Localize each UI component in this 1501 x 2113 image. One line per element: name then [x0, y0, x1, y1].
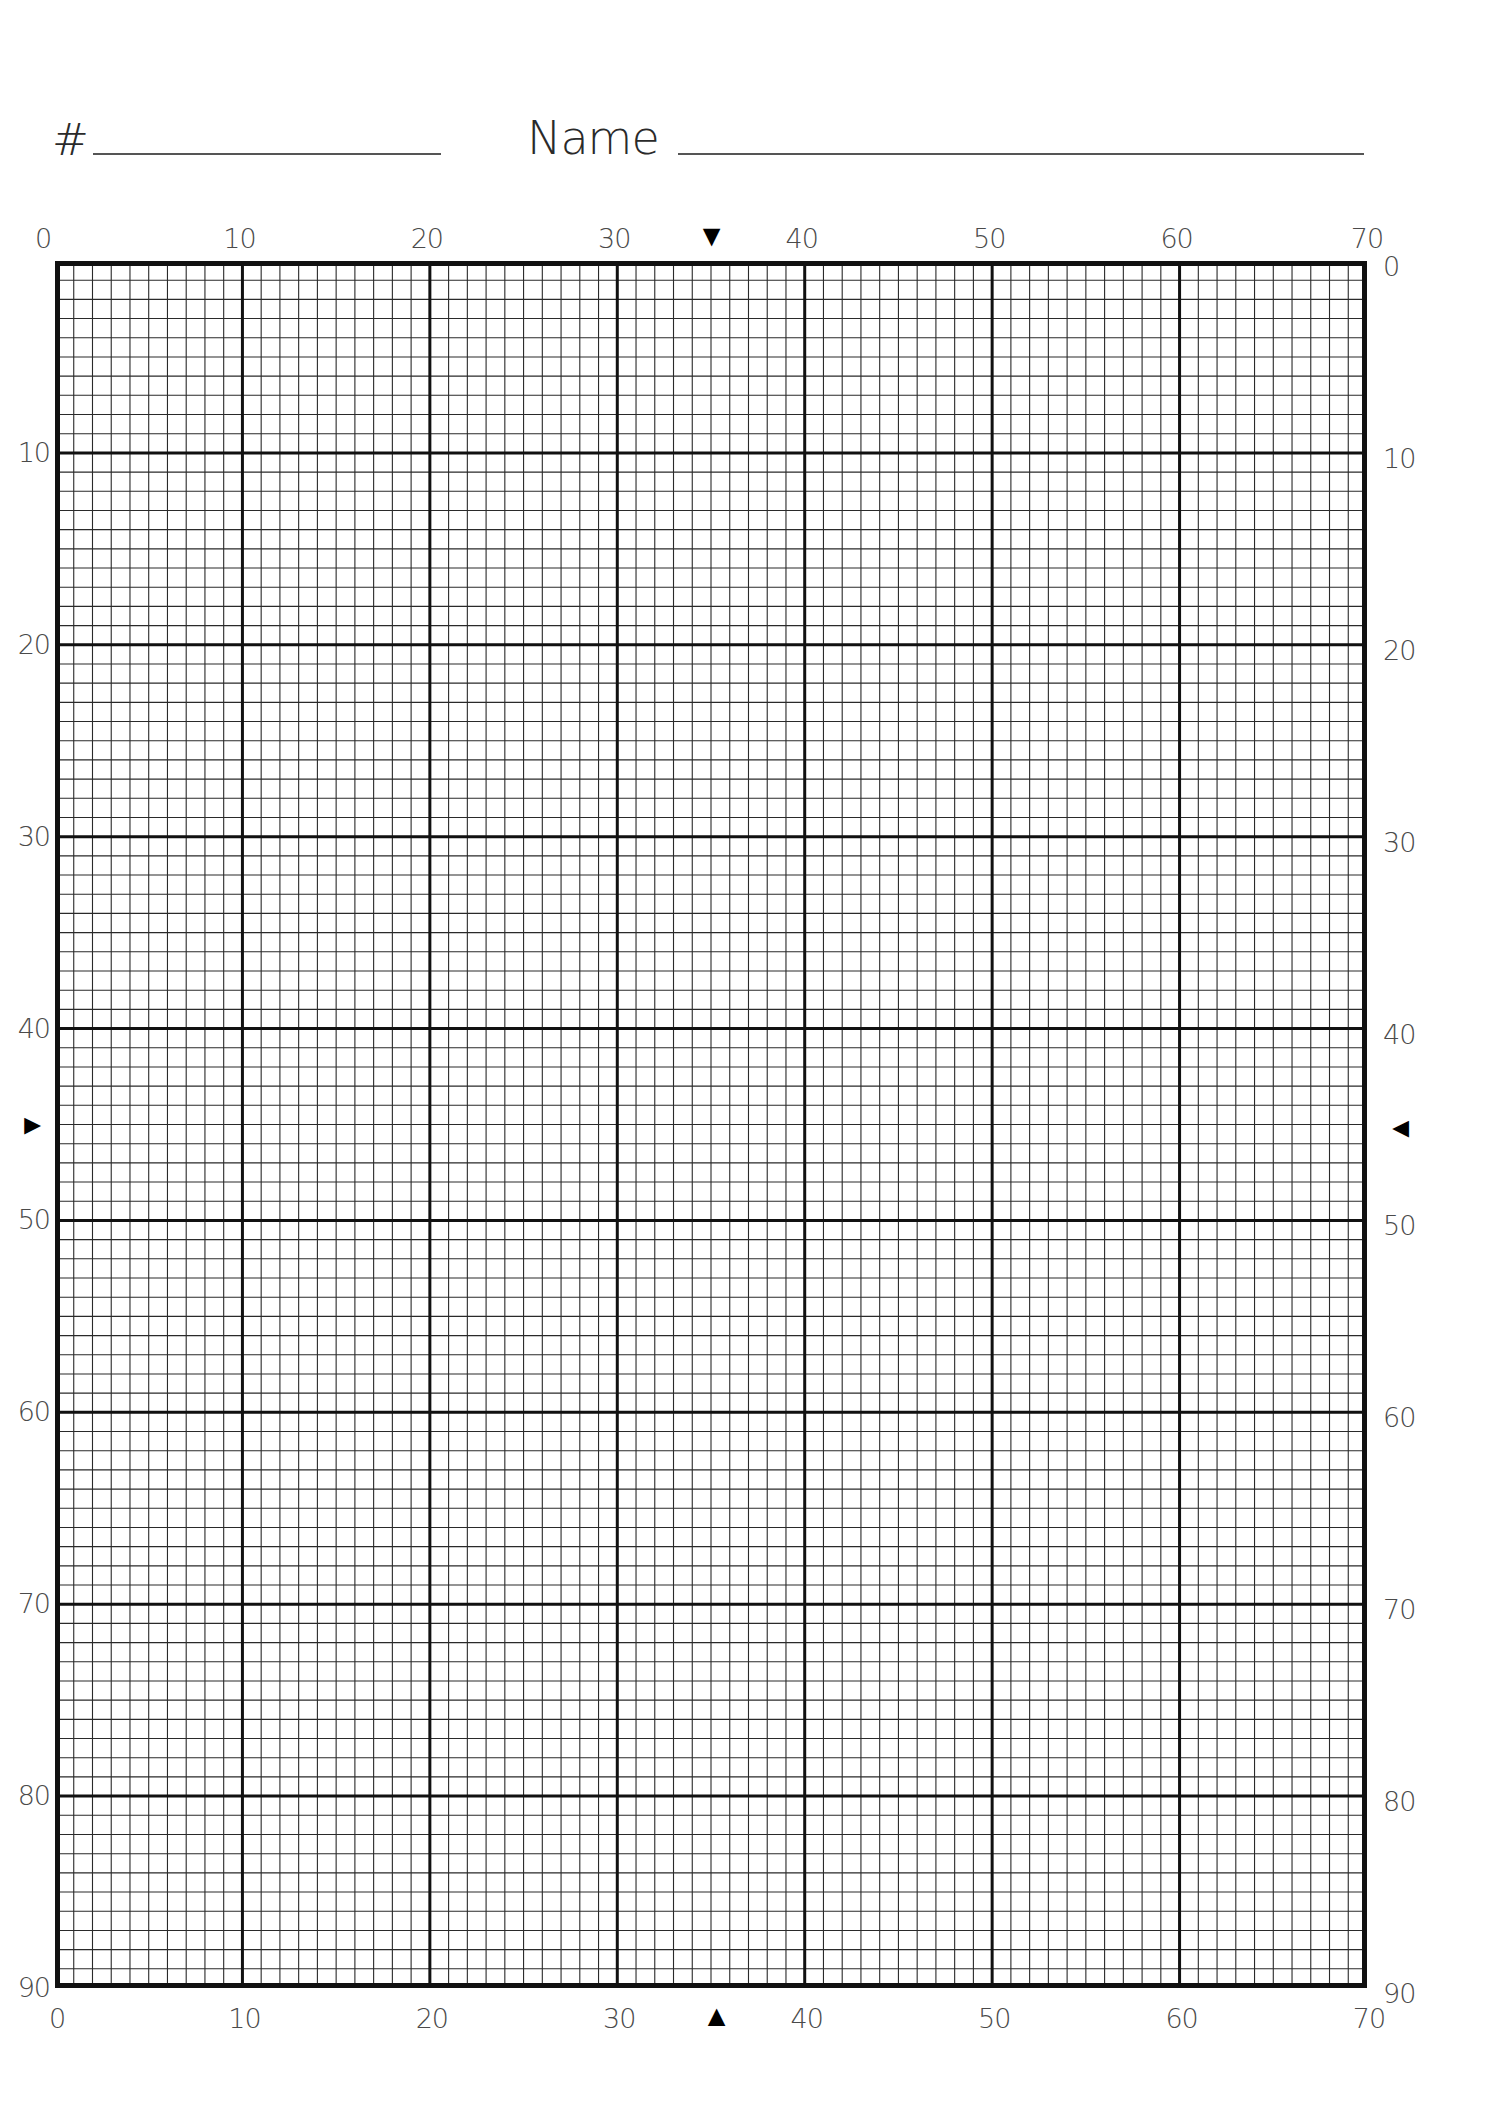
left-axis-label: 80	[18, 1782, 50, 1809]
bottom-axis-label: 70	[1353, 2005, 1385, 2032]
center-marker-bottom: ▲	[702, 2001, 731, 2031]
bottom-axis-label: 60	[1165, 2005, 1197, 2032]
center-marker-top: ▼	[697, 221, 726, 251]
left-axis-label: 30	[18, 822, 50, 849]
right-axis-label: 50	[1383, 1212, 1415, 1239]
right-axis-label: 90	[1383, 1980, 1415, 2007]
left-axis-label: 60	[18, 1398, 50, 1425]
bottom-axis-label: 50	[978, 2005, 1010, 2032]
top-axis-label: 40	[786, 225, 818, 252]
left-axis-label: 20	[18, 630, 50, 657]
right-axis-label: 10	[1383, 444, 1415, 471]
top-axis-label: 30	[598, 225, 630, 252]
bottom-axis-label: 20	[416, 2005, 448, 2032]
right-axis-label: 40	[1383, 1020, 1415, 1047]
top-axis-label: 0	[35, 225, 51, 252]
name-label: Name	[527, 115, 659, 161]
top-axis-label: 10	[223, 225, 255, 252]
top-axis-label: 20	[411, 225, 443, 252]
left-axis-label: 70	[18, 1590, 50, 1617]
bottom-axis-label: 0	[49, 2005, 65, 2032]
left-axis-label: 90	[18, 1974, 50, 2001]
right-axis-label: 80	[1383, 1788, 1415, 1815]
top-axis-label: 60	[1160, 225, 1192, 252]
number-field[interactable]	[93, 153, 441, 155]
right-axis-label: 20	[1383, 636, 1415, 663]
bottom-axis-label: 10	[228, 2005, 260, 2032]
right-axis-label: 30	[1383, 828, 1415, 855]
top-axis-label: 70	[1351, 225, 1383, 252]
number-label: #	[52, 118, 89, 162]
right-axis-label: 60	[1383, 1404, 1415, 1431]
left-axis-label: 40	[18, 1014, 50, 1041]
bottom-axis-label: 30	[603, 2005, 635, 2032]
top-axis-label: 50	[973, 225, 1005, 252]
name-field[interactable]	[678, 153, 1364, 155]
center-marker-left: ►	[19, 1111, 46, 1139]
graph-grid	[55, 261, 1367, 1988]
right-axis-label: 70	[1383, 1596, 1415, 1623]
bottom-axis-label: 40	[791, 2005, 823, 2032]
center-marker-right: ◄	[1387, 1114, 1414, 1142]
right-axis-label: 0	[1383, 253, 1399, 280]
left-axis-label: 10	[18, 438, 50, 465]
minor-grid-lines	[55, 261, 1367, 1988]
left-axis-label: 50	[18, 1206, 50, 1233]
